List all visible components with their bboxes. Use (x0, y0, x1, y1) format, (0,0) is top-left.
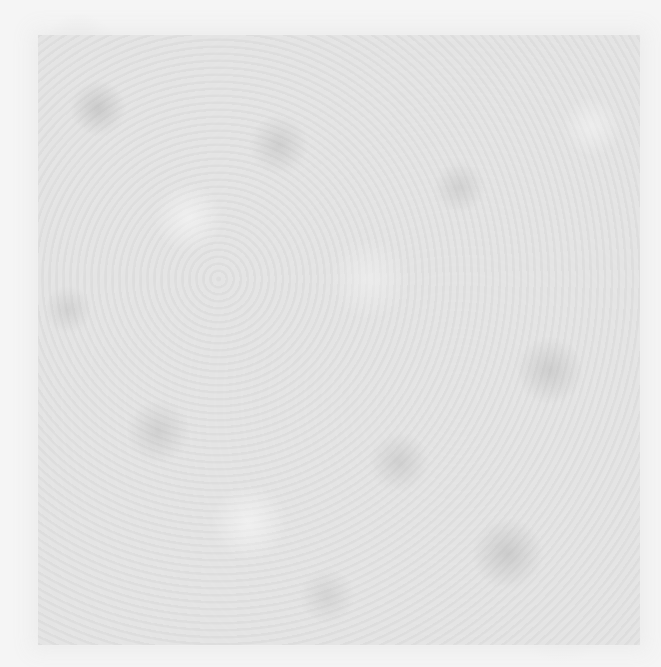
texture-canvas (0, 0, 661, 667)
noise-texture-square (38, 35, 640, 645)
